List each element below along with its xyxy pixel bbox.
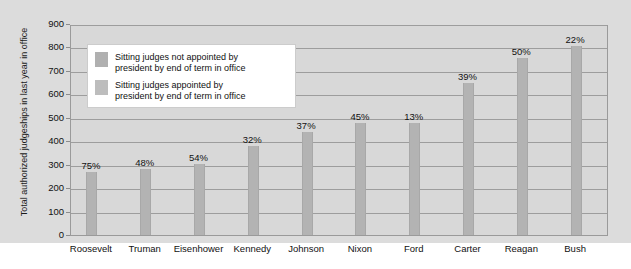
bar-value-label: 37% [286,120,326,131]
legend-label-not-appointed: Sitting judges not appointed by presiden… [115,52,245,74]
y-tick-label: 100 [30,206,64,217]
legend-item-0: Sitting judges not appointed by presiden… [95,52,245,74]
y-tick-label: 500 [30,112,64,123]
bar [86,172,97,235]
legend-swatch-not-appointed [95,52,108,67]
y-tick-label: 800 [30,41,64,52]
bar [302,132,313,235]
bar [463,83,474,235]
bar-value-label: 22% [555,34,595,45]
y-tick-label: 900 [30,18,64,29]
legend-label-appointed: Sitting judges appointed by president by… [115,80,245,102]
bar [355,123,366,235]
y-tick-label: 700 [30,65,64,76]
bar-value-label: 39% [448,71,488,82]
y-tick-label: 600 [30,88,64,99]
y-tick-label: 400 [30,135,64,146]
bar-value-label: 13% [394,111,434,122]
bar [409,123,420,235]
bar-value-label: 45% [340,111,380,122]
gridline [71,25,607,26]
bar-value-label: 54% [179,152,219,163]
y-tick-label: 300 [30,159,64,170]
bar-value-label: 75% [71,160,111,171]
bar-value-label: 48% [125,157,165,168]
chart-legend: Sitting judges not appointed by presiden… [87,44,296,108]
bar [571,46,582,235]
bar [248,146,259,235]
chart-page: Total authorized judgeships in last year… [0,0,631,269]
bar-value-label: 50% [501,46,541,57]
legend-item-1: Sitting judges appointed by president by… [95,80,245,102]
y-axis-title: Total authorized judgeships in last year… [19,12,29,232]
x-tick-label: Bush [540,243,610,254]
bar [140,169,151,235]
bar [194,164,205,235]
bar-value-label: 32% [232,134,272,145]
y-tick-label: 200 [30,182,64,193]
y-tick-label: 0 [30,229,64,240]
bar [517,58,528,235]
legend-swatch-appointed [95,80,108,95]
